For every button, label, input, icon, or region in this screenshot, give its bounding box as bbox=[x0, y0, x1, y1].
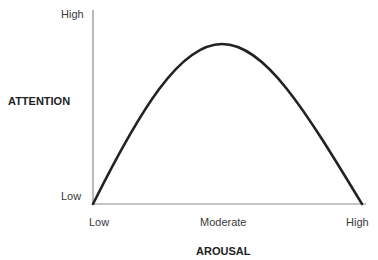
y-tick-low: Low bbox=[61, 190, 81, 202]
arousal-attention-curve bbox=[93, 44, 362, 204]
x-tick-high: High bbox=[346, 216, 369, 228]
x-tick-low: Low bbox=[89, 216, 109, 228]
x-tick-moderate: Moderate bbox=[200, 216, 246, 228]
inverted-u-chart bbox=[0, 0, 378, 260]
x-axis-title: AROUSAL bbox=[196, 245, 250, 257]
y-axis-title: ATTENTION bbox=[8, 95, 70, 107]
y-tick-high: High bbox=[61, 8, 84, 20]
